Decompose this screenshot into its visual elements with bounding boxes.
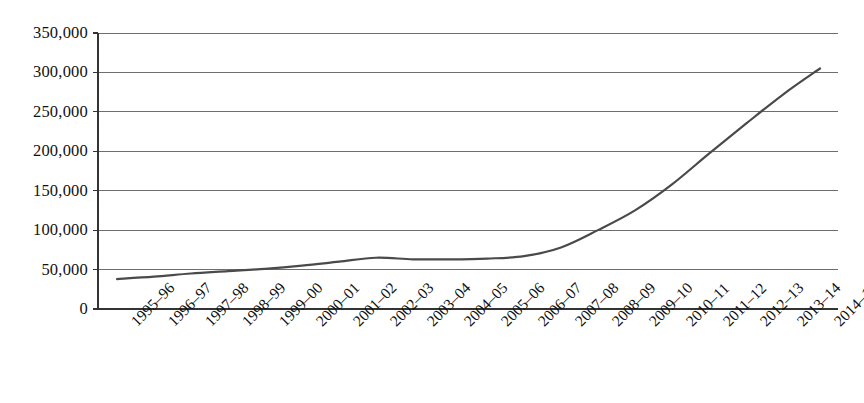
- x-axis-tick-label: 2000–01: [313, 318, 324, 329]
- x-axis-tick-label: 1999–00: [276, 318, 287, 329]
- x-axis-tick-label: 2008–09: [609, 318, 620, 329]
- x-axis-tick-label: 2004–05: [461, 318, 472, 329]
- x-axis-tick-label: 1998–99: [239, 318, 250, 329]
- x-axis-tick-label: 2003–04: [424, 318, 435, 329]
- x-axis-tick-label: 2001–02: [350, 318, 361, 329]
- x-axis-tick-label: 1997–98: [202, 318, 213, 329]
- x-axis-tick-label: 2014–15: [831, 318, 842, 329]
- x-axis-tick-label: 2012–13: [757, 318, 768, 329]
- x-axis-tick-label: 1995–96: [128, 318, 139, 329]
- x-axis-tick-labels: 1995–961996–971997–981998–991999–002000–…: [0, 0, 864, 403]
- x-axis-tick-label: 2005–06: [498, 318, 509, 329]
- x-axis-tick-label: 1996–97: [165, 318, 176, 329]
- x-axis-tick-label: 2009–10: [646, 318, 657, 329]
- x-axis-tick-label: 2002–03: [387, 318, 398, 329]
- line-chart: 050,000100,000150,000200,000250,000300,0…: [0, 0, 864, 403]
- x-axis-tick-label: 2007–08: [572, 318, 583, 329]
- x-axis-tick-label: 2011–12: [720, 318, 731, 329]
- x-axis-tick-label: 2010–11: [683, 318, 694, 329]
- x-axis-tick-label: 2013–14: [794, 318, 805, 329]
- x-axis-tick-label: 2006–07: [535, 318, 546, 329]
